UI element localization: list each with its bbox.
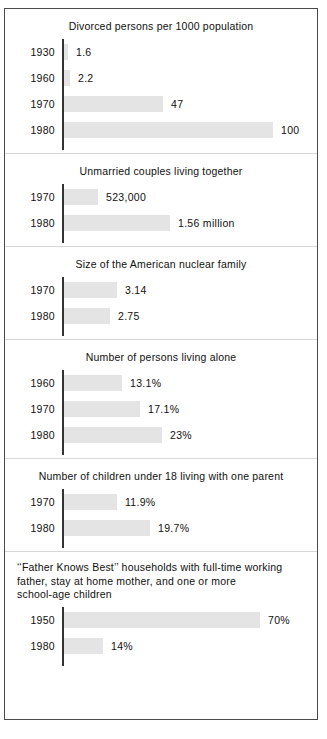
bar xyxy=(64,520,150,536)
bar xyxy=(64,96,163,112)
category-label: 1970 xyxy=(5,191,55,203)
bar-row: 198019.7% xyxy=(5,515,317,541)
panel-rows: 195070%198014% xyxy=(5,607,317,669)
bar-track: 70% xyxy=(64,612,313,628)
chart-panel: Divorced persons per 1000 population1930… xyxy=(5,9,317,153)
bar-track: 47 xyxy=(64,96,313,112)
panel-rows: 197011.9%198019.7% xyxy=(5,489,317,551)
bar-track: 13.1% xyxy=(64,375,313,391)
value-label: 2.2 xyxy=(70,72,94,84)
chart-panel: Number of persons living alone196013.1%1… xyxy=(5,339,317,458)
value-label: 23% xyxy=(162,429,192,441)
panel-title-line: Unmarried couples living together xyxy=(79,165,242,177)
panel-title: Number of children under 18 living with … xyxy=(5,459,317,489)
bar-track: 523,000 xyxy=(64,189,313,205)
bar-row: 19703.14 xyxy=(5,277,317,303)
bar-row: 195070% xyxy=(5,607,317,633)
bar-row: 1980100 xyxy=(5,117,317,143)
chart-panel: Unmarried couples living together1970523… xyxy=(5,153,317,246)
category-label: 1980 xyxy=(5,522,55,534)
chart-panel: Size of the American nuclear family19703… xyxy=(5,246,317,339)
value-label: 1.6 xyxy=(68,46,92,58)
bar-row: 198023% xyxy=(5,422,317,448)
value-label: 70% xyxy=(260,614,290,626)
bar-track: 11.9% xyxy=(64,494,313,510)
bar-row: 19602.2 xyxy=(5,65,317,91)
category-label: 1970 xyxy=(5,496,55,508)
category-label: 1930 xyxy=(5,46,55,58)
category-label: 1970 xyxy=(5,403,55,415)
bar-row: 197017.1% xyxy=(5,396,317,422)
bar xyxy=(64,189,98,205)
bar xyxy=(64,282,117,298)
bar xyxy=(64,375,122,391)
bar-track: 1.56 million xyxy=(64,215,313,231)
bar-track: 2.2 xyxy=(64,70,313,86)
panel-rows: 196013.1%197017.1%198023% xyxy=(5,370,317,458)
chart-figure: Divorced persons per 1000 population1930… xyxy=(4,8,318,720)
value-label: 19.7% xyxy=(150,522,189,534)
bar-row: 198014% xyxy=(5,633,317,659)
panel-title-line: school-age children xyxy=(17,588,112,600)
bar xyxy=(64,308,110,324)
value-label: 3.14 xyxy=(117,284,147,296)
bar xyxy=(64,427,162,443)
bar-track: 23% xyxy=(64,427,313,443)
value-label: 17.1% xyxy=(140,403,179,415)
category-label: 1970 xyxy=(5,284,55,296)
panel-rows: 19301.619602.21970471980100 xyxy=(5,39,317,153)
bar-row: 197047 xyxy=(5,91,317,117)
value-label: 100 xyxy=(273,124,299,136)
bar-row: 197011.9% xyxy=(5,489,317,515)
bar xyxy=(64,638,103,654)
bar-track: 14% xyxy=(64,638,313,654)
value-label: 2.75 xyxy=(110,310,140,322)
value-label: 523,000 xyxy=(98,191,146,203)
chart-panel: Number of children under 18 living with … xyxy=(5,458,317,551)
panel-title: Size of the American nuclear family xyxy=(5,247,317,277)
bar xyxy=(64,215,170,231)
category-label: 1950 xyxy=(5,614,55,626)
category-label: 1960 xyxy=(5,377,55,389)
category-label: 1970 xyxy=(5,98,55,110)
panel-title-line: Number of persons living alone xyxy=(86,351,237,363)
category-label: 1980 xyxy=(5,429,55,441)
bar-track: 1.6 xyxy=(64,44,313,60)
value-label: 11.9% xyxy=(117,496,156,508)
panel-list: Divorced persons per 1000 population1930… xyxy=(5,9,317,719)
value-label: 47 xyxy=(163,98,183,110)
category-label: 1980 xyxy=(5,640,55,652)
category-label: 1980 xyxy=(5,310,55,322)
panel-title-line: ‘‘Father Knows Best’’ households with fu… xyxy=(17,561,282,573)
panel-title-line: Divorced persons per 1000 population xyxy=(69,20,254,32)
bar-row: 19802.75 xyxy=(5,303,317,329)
bar xyxy=(64,122,273,138)
bar-track: 19.7% xyxy=(64,520,313,536)
bar-row: 19801.56 million xyxy=(5,210,317,236)
value-label: 14% xyxy=(103,640,133,652)
bar-track: 17.1% xyxy=(64,401,313,417)
panel-rows: 19703.1419802.75 xyxy=(5,277,317,339)
bar-row: 196013.1% xyxy=(5,370,317,396)
bar-track: 2.75 xyxy=(64,308,313,324)
category-label: 1980 xyxy=(5,124,55,136)
category-label: 1960 xyxy=(5,72,55,84)
panel-title: Unmarried couples living together xyxy=(5,154,317,184)
panel-title: Divorced persons per 1000 population xyxy=(5,9,317,39)
chart-panel: ‘‘Father Knows Best’’ households with fu… xyxy=(5,551,317,669)
bar-row: 1970523,000 xyxy=(5,184,317,210)
value-label: 1.56 million xyxy=(170,217,235,229)
category-label: 1980 xyxy=(5,217,55,229)
bar xyxy=(64,612,260,628)
bar-row: 19301.6 xyxy=(5,39,317,65)
bar-track: 100 xyxy=(64,122,313,138)
panel-title: Number of persons living alone xyxy=(5,340,317,370)
panel-rows: 1970523,00019801.56 million xyxy=(5,184,317,246)
value-label: 13.1% xyxy=(122,377,161,389)
bar xyxy=(64,494,117,510)
bar-track: 3.14 xyxy=(64,282,313,298)
panel-title: ‘‘Father Knows Best’’ households with fu… xyxy=(5,552,317,607)
panel-title-line: Size of the American nuclear family xyxy=(76,258,247,270)
panel-title-line: father, stay at home mother, and one or … xyxy=(17,575,236,587)
bar xyxy=(64,401,140,417)
